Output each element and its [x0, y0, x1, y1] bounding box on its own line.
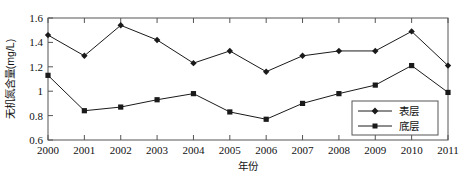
legend-label-bottom: 底层 — [399, 120, 419, 132]
chart-canvas: 0.60.811.21.41.6 20002001200220032004200… — [0, 0, 472, 183]
data-point-marker — [154, 97, 159, 102]
data-point-marker — [300, 101, 305, 106]
inorganic-nitrogen-line-chart: 0.60.811.21.41.6 20002001200220032004200… — [0, 0, 472, 183]
data-point-marker — [445, 90, 450, 95]
x-tick-label: 2011 — [437, 144, 459, 156]
y-tick-label: 1.6 — [29, 12, 43, 24]
legend-box — [352, 101, 438, 135]
data-point-marker — [82, 108, 87, 113]
x-tick-label: 2010 — [401, 144, 424, 156]
x-tick-label: 2009 — [364, 144, 387, 156]
x-tick-label: 2003 — [146, 144, 169, 156]
x-axis-title: 年份 — [238, 160, 259, 172]
data-point-marker — [373, 83, 378, 88]
square-marker-icon — [373, 124, 378, 129]
data-point-marker — [227, 109, 232, 114]
x-tick-label: 2008 — [328, 144, 351, 156]
data-point-marker — [191, 91, 196, 96]
data-point-marker — [336, 91, 341, 96]
data-point-marker — [118, 104, 123, 109]
data-point-marker — [409, 63, 414, 68]
y-tick-label: 1.2 — [29, 61, 43, 73]
legend-label-surface: 表层 — [399, 105, 419, 117]
x-tick-label: 2007 — [292, 144, 315, 156]
x-tick-label: 2005 — [219, 144, 242, 156]
x-tick-label: 2004 — [182, 144, 205, 156]
x-tick-label: 2000 — [37, 144, 60, 156]
y-tick-label: 1.4 — [29, 36, 43, 48]
x-tick-label: 2001 — [73, 144, 95, 156]
chart-legend: 表层 底层 — [352, 101, 438, 135]
data-point-marker — [45, 73, 50, 78]
x-tick-label: 2006 — [255, 144, 278, 156]
y-tick-label: 0.8 — [29, 110, 43, 122]
data-point-marker — [264, 117, 269, 122]
y-tick-label: 1 — [38, 85, 44, 97]
x-tick-label: 2002 — [110, 144, 132, 156]
y-axis-title: 无机氮含量(mg/L) — [4, 39, 16, 119]
